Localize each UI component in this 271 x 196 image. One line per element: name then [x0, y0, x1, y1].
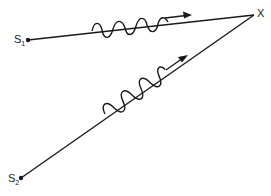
source-s1-dot: [26, 38, 30, 42]
interference-diagram: [0, 0, 271, 196]
path-s2-x: [21, 15, 254, 178]
target-x-label: X: [257, 7, 264, 19]
source-s1-label: S1: [14, 33, 25, 45]
arrow-upper: [165, 16, 186, 19]
source-s2-label: S2: [8, 172, 19, 184]
source-s2-dot: [19, 176, 23, 180]
wave-lower: [100, 64, 171, 121]
arrowhead-upper-icon: [183, 12, 192, 19]
wave-upper: [92, 18, 168, 38]
